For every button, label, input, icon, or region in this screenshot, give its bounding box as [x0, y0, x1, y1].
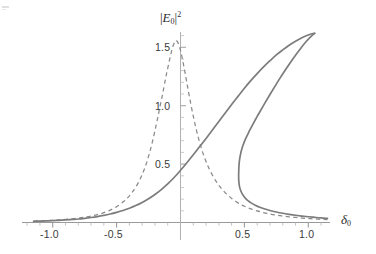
y-axis-minor-ticks — [181, 36, 185, 211]
x-tick-label--1.0: -1.0 — [40, 228, 59, 240]
solid-bistable-lower-branch — [34, 33, 315, 221]
x-tick-label-0.5: 0.5 — [235, 228, 250, 240]
y-axis-title-superscript: 2 — [177, 10, 181, 19]
y-axis-title-symbol: E — [163, 10, 171, 25]
y-tick-label-1.5: 1.5 — [155, 41, 170, 53]
y-axis-title: |E0|2 — [160, 10, 181, 26]
plot-canvas — [0, 0, 376, 254]
chart-figure: -1.0 -0.5 0.5 1.0 0.5 1.0 1.5 |E0|2 δ0 — [0, 0, 376, 254]
solid-bistable-fold-branch — [239, 33, 328, 218]
y-tick-label-0.5: 0.5 — [155, 158, 170, 170]
x-tick-label--0.5: -0.5 — [104, 228, 123, 240]
x-tick-label-1.0: 1.0 — [299, 228, 314, 240]
x-axis-title-subscript: 0 — [347, 219, 351, 228]
x-axis-title: δ0 — [341, 212, 351, 228]
y-tick-label-1.0: 1.0 — [155, 100, 170, 112]
